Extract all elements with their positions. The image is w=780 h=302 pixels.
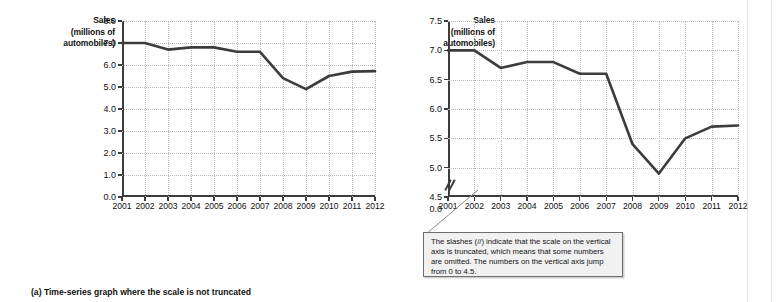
chart-a: 0.01.02.03.04.05.06.07.08.02001200220032…	[122, 21, 375, 197]
y-axis-tick-label: 6.0	[103, 60, 116, 70]
x-axis-tick-label: 2010	[319, 201, 338, 211]
x-axis-tick-label: 2007	[250, 201, 269, 211]
y-axis-tick-label: 7.0	[429, 45, 442, 55]
x-axis-tick-label: 2009	[649, 201, 668, 211]
y-axis-tick-label: 5.5	[429, 133, 442, 143]
x-axis-tick-label: 2004	[518, 201, 537, 211]
x-axis-tick-label: 2002	[135, 201, 154, 211]
y-axis-tick-label: 6.0	[429, 104, 442, 114]
plot-area-a: 0.01.02.03.04.05.06.07.08.02001200220032…	[122, 21, 375, 197]
y-axis-tick-label: 3.0	[103, 126, 116, 136]
x-axis-tick-label: 2011	[702, 201, 720, 211]
y-axis-tick-label: 7.0	[103, 38, 116, 48]
caption-a: (a) Time-series graph where the scale is…	[31, 287, 251, 297]
callout-text: The slashes (//) indicate that the scale…	[431, 237, 616, 277]
x-axis-tick-label: 2004	[181, 201, 200, 211]
y-axis-title-line: Sales	[20, 15, 115, 27]
y-axis-tick-label: 2.0	[103, 148, 116, 158]
panel-a: Sales (millions of automobiles) 0.01.02.…	[0, 0, 390, 302]
callout-leader-line	[420, 188, 480, 236]
data-series-line	[448, 21, 740, 199]
truncation-callout: The slashes (//) indicate that the scale…	[423, 232, 623, 277]
chart-b: 4.55.05.56.06.57.07.50.02001200220032004…	[448, 21, 738, 197]
x-axis-tick-label: 2006	[570, 201, 589, 211]
y-axis-tick-label: 7.5	[429, 16, 442, 26]
y-axis-tick-label: 4.0	[103, 104, 116, 114]
x-axis-tick-label: 2001	[112, 201, 131, 211]
x-axis-tick-label: 2010	[676, 201, 695, 211]
x-axis-tick-label: 2012	[728, 201, 747, 211]
x-axis-tick-label: 2005	[204, 201, 223, 211]
plot-area-b: 4.55.05.56.06.57.07.50.02001200220032004…	[448, 21, 738, 197]
figure-page: Sales (millions of automobiles) 0.01.02.…	[0, 0, 780, 302]
x-axis-tick-label: 2012	[365, 201, 384, 211]
x-axis-tick-label: 2007	[597, 201, 616, 211]
y-axis-tick-label: 8.0	[103, 16, 116, 26]
y-axis-title-line: (millions of	[20, 27, 115, 39]
x-axis-tick-label: 2009	[296, 201, 315, 211]
y-axis-title-a: Sales (millions of automobiles)	[20, 15, 115, 50]
y-axis-tick-label: 1.0	[103, 170, 116, 180]
x-axis-tick-label: 2003	[491, 201, 510, 211]
y-axis-tick-label: 6.5	[429, 75, 442, 85]
data-series-line	[122, 21, 377, 199]
y-axis-tick-label: 5.0	[429, 163, 442, 173]
x-axis-tick-label: 2008	[273, 201, 292, 211]
x-axis-tick-label: 2005	[544, 201, 563, 211]
x-axis-tick-label: 2003	[158, 201, 177, 211]
y-axis-tick-label: 5.0	[103, 82, 116, 92]
y-axis-title-line: automobiles)	[20, 38, 115, 50]
x-axis-tick-label: 2006	[227, 201, 246, 211]
x-axis-tick-label: 2011	[343, 201, 361, 211]
x-axis-tick-label: 2008	[623, 201, 642, 211]
